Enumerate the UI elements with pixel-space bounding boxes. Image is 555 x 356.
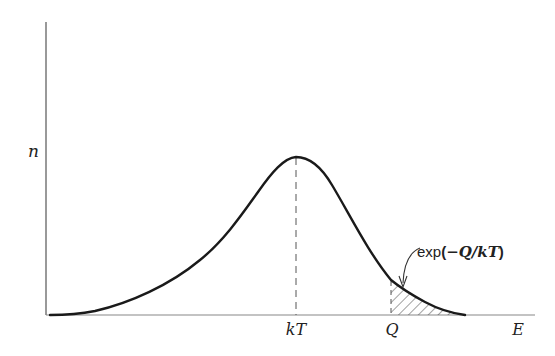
annotation-exp: exp [417,243,441,260]
x-axis-label: E [511,320,524,339]
energy-distribution-figure: n kT Q E exp(−Q/kT) [0,0,555,356]
y-axis-label: n [28,141,39,161]
tick-label-Q: Q [385,320,398,339]
annotation-label: exp(−Q/kT) [417,243,504,261]
annotation-body: −Q/kT [446,243,501,261]
annotation-close-paren: ) [499,243,504,260]
tick-label-kT: kT [286,320,308,339]
